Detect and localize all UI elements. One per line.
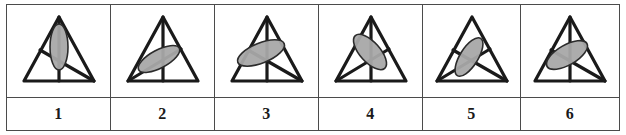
figure-cell-option-4[interactable] <box>319 5 423 97</box>
figure-option-1 <box>13 10 105 92</box>
option-label-5[interactable]: 5 <box>423 98 521 130</box>
option-label-6[interactable]: 6 <box>521 98 619 130</box>
ellipse-5 <box>449 34 488 81</box>
figure-cell-option-6[interactable] <box>521 5 619 97</box>
option-label-3[interactable]: 3 <box>215 98 319 130</box>
figure-cell-option-1[interactable] <box>7 5 111 97</box>
answer-options-table: 1 2 3 4 5 6 <box>6 4 620 131</box>
figure-option-4 <box>325 10 417 92</box>
option-label-4[interactable]: 4 <box>319 98 423 130</box>
labels-row: 1 2 3 4 5 6 <box>7 98 619 130</box>
figure-cell-option-3[interactable] <box>215 5 319 97</box>
ellipse-1 <box>50 24 68 70</box>
option-label-1[interactable]: 1 <box>7 98 111 130</box>
figure-option-5 <box>426 10 518 92</box>
figure-option-2 <box>117 10 209 92</box>
figure-option-3 <box>221 10 313 92</box>
figure-option-6 <box>524 10 616 92</box>
figure-cell-option-2[interactable] <box>111 5 215 97</box>
ellipse-3 <box>234 34 288 71</box>
option-label-2[interactable]: 2 <box>111 98 215 130</box>
figure-cell-option-5[interactable] <box>423 5 521 97</box>
figures-row <box>7 5 619 98</box>
